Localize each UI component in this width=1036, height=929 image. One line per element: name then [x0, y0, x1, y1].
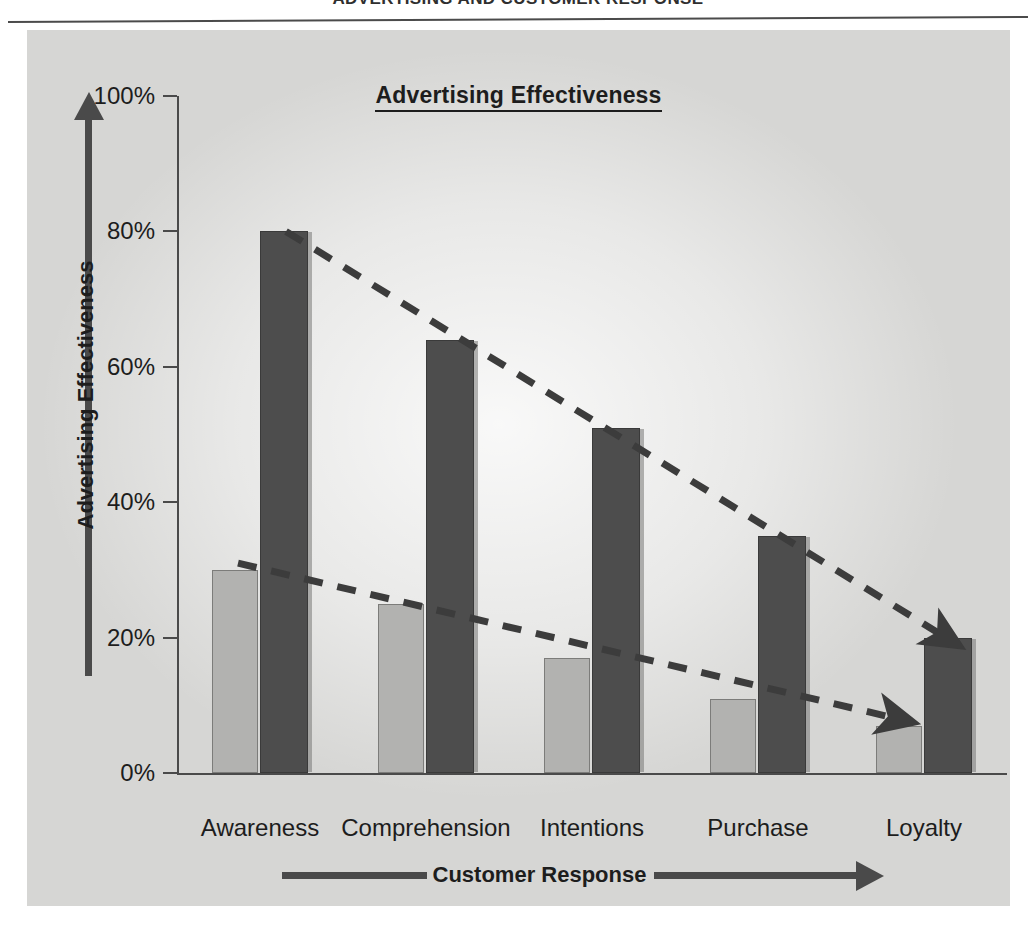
y-axis-tick-label: 0% — [120, 759, 155, 787]
bar-light — [544, 658, 590, 773]
x-axis-tick-label: Intentions — [540, 814, 644, 842]
plot-area: 0%20%40%60%80%100% — [177, 96, 1007, 773]
x-axis-line — [177, 773, 1007, 775]
bar-group — [876, 96, 972, 773]
bar-light — [876, 726, 922, 773]
y-axis-tick-label: 100% — [94, 82, 155, 110]
bar-group — [710, 96, 806, 773]
bar-group — [544, 96, 640, 773]
x-axis-tick-label: Comprehension — [341, 814, 510, 842]
y-axis-tick — [163, 501, 177, 503]
y-axis-label: Advertising Effectiveness — [73, 205, 99, 585]
x-axis-label: Customer Response — [432, 862, 647, 888]
x-axis-tick-label: Awareness — [201, 814, 319, 842]
chart-panel: Advertising Effectiveness Advertising Ef… — [27, 30, 1010, 906]
bar-light — [212, 570, 258, 773]
bar-dark — [426, 340, 474, 773]
y-axis-tick-label: 60% — [107, 353, 155, 381]
bar-dark — [924, 638, 972, 773]
y-axis-tick — [163, 366, 177, 368]
bar-light — [710, 699, 756, 773]
bar-dark — [592, 428, 640, 773]
running-head-text: ADVERTISING AND CUSTOMER RESPONSE — [0, 0, 1036, 9]
y-axis-tick — [163, 95, 177, 97]
x-axis-tick-label: Loyalty — [886, 814, 962, 842]
y-axis-tick-label: 20% — [107, 624, 155, 652]
x-axis-caption-line-right — [654, 872, 859, 879]
y-axis-tick-label: 40% — [107, 488, 155, 516]
y-axis-tick-label: 80% — [107, 217, 155, 245]
bar-group — [212, 96, 308, 773]
bar-dark — [758, 536, 806, 773]
x-axis-caption-group: Customer Response — [282, 856, 902, 896]
y-axis-tick — [163, 637, 177, 639]
x-axis-caption-line-left — [282, 872, 427, 879]
bar-light — [378, 604, 424, 773]
y-axis-tick — [163, 772, 177, 774]
x-axis-arrow-icon — [856, 861, 884, 891]
bar-dark — [260, 231, 308, 773]
bar-group — [378, 96, 474, 773]
y-axis-tick — [163, 230, 177, 232]
x-axis-tick-label: Purchase — [707, 814, 808, 842]
y-axis-caption-group: Advertising Effectiveness — [63, 92, 109, 792]
y-axis-line — [177, 96, 179, 775]
